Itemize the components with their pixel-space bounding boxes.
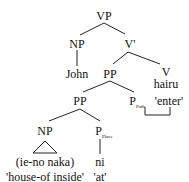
- p-path-subscript: Path: [136, 104, 145, 109]
- node-pp-upper: PP: [103, 68, 116, 80]
- node-np-subject: NP: [69, 38, 84, 50]
- word-ie-no-naka: (ie-no naka): [16, 156, 74, 168]
- edge-pp-np: [49, 109, 80, 121]
- node-np-object: NP: [37, 125, 52, 137]
- node-vp: VP: [96, 10, 111, 22]
- p-place-label: P: [95, 124, 102, 138]
- edge-pp-pplace: [80, 109, 100, 121]
- edge-vp-vbar: [104, 23, 125, 34]
- triangle-icon: [33, 141, 57, 153]
- p-path-label: P: [129, 94, 136, 108]
- word-hairu: hairu: [154, 78, 179, 90]
- node-p-place: PPlace: [95, 125, 113, 143]
- gloss-house-of-inside: 'house-of inside': [6, 171, 84, 182]
- node-v-bar: V': [125, 38, 136, 50]
- edge-vbar-v: [128, 52, 160, 64]
- p-place-subscript: Place: [102, 134, 113, 139]
- edge-vp-np: [80, 23, 104, 35]
- bracket-connector: [145, 107, 170, 115]
- edge-pp-pp: [83, 81, 110, 92]
- node-p-path: PPath: [129, 95, 145, 113]
- edge-pp-ppath: [110, 81, 134, 92]
- node-pp-lower: PP: [73, 95, 86, 107]
- gloss-enter: 'enter': [155, 95, 183, 107]
- gloss-at: 'at': [94, 171, 107, 182]
- word-ni: ni: [95, 156, 104, 168]
- word-john: John: [66, 68, 89, 80]
- edge-vbar-pp: [113, 52, 128, 64]
